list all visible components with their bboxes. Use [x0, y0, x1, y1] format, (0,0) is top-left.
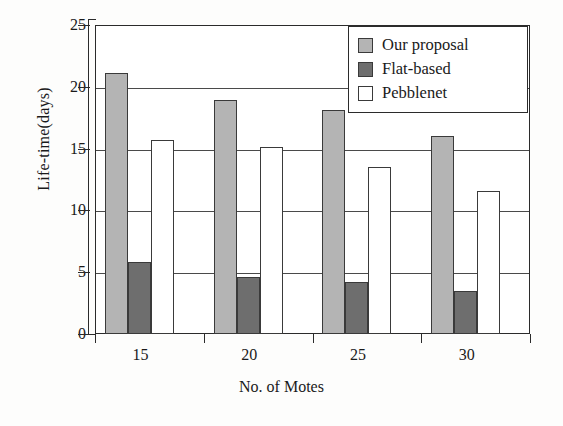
legend-label: Pebblenet — [382, 83, 447, 103]
chart-legend: Our proposalFlat-basedPebblenet — [348, 26, 528, 113]
x-tick-label-25: 25 — [323, 346, 393, 364]
y-tick-mark-25 — [78, 25, 90, 26]
bar-flat-based-25 — [345, 282, 368, 334]
x-tick-label-15: 15 — [105, 346, 175, 364]
y-tick-mark-20 — [78, 87, 90, 88]
x-tick-mark-origin — [95, 334, 96, 343]
bar-chart-figure: Life-time(days) 0510152025 Our proposalF… — [0, 0, 563, 426]
bar-pebblenet-30 — [477, 191, 500, 334]
legend-swatch-icon-0 — [358, 38, 373, 53]
legend-swatch-icon-1 — [358, 62, 373, 77]
bar-flat-based-30 — [454, 291, 477, 334]
bar-flat-based-20 — [237, 277, 260, 334]
bar-flat-based-15 — [128, 262, 151, 334]
bar-our-proposal-20 — [214, 100, 237, 334]
legend-item-pebblenet: Pebblenet — [358, 81, 519, 105]
x-tick-mark-20 — [313, 334, 314, 343]
y-axis-tick-labels: 0510152025 — [40, 0, 86, 426]
x-tick-label-30: 30 — [432, 346, 502, 364]
bar-our-proposal-25 — [322, 110, 345, 334]
bar-our-proposal-30 — [431, 136, 454, 334]
x-axis-title: No. of Motes — [0, 378, 563, 396]
legend-item-flat-based: Flat-based — [358, 57, 519, 81]
y-tick-mark-10 — [78, 210, 90, 211]
legend-swatch-icon-2 — [358, 86, 373, 101]
bar-pebblenet-25 — [368, 167, 391, 334]
legend-item-our-proposal: Our proposal — [358, 33, 519, 57]
x-tick-mark-30 — [530, 334, 531, 343]
bar-pebblenet-15 — [151, 140, 174, 334]
x-tick-mark-15 — [204, 334, 205, 343]
legend-label: Our proposal — [382, 35, 469, 55]
bar-pebblenet-20 — [260, 147, 283, 334]
y-tick-mark-0 — [78, 334, 90, 335]
x-tick-mark-25 — [421, 334, 422, 343]
x-tick-label-20: 20 — [214, 346, 284, 364]
y-tick-mark-5 — [78, 272, 90, 273]
bar-our-proposal-15 — [105, 73, 128, 334]
y-tick-mark-15 — [78, 149, 90, 150]
legend-label: Flat-based — [382, 59, 451, 79]
